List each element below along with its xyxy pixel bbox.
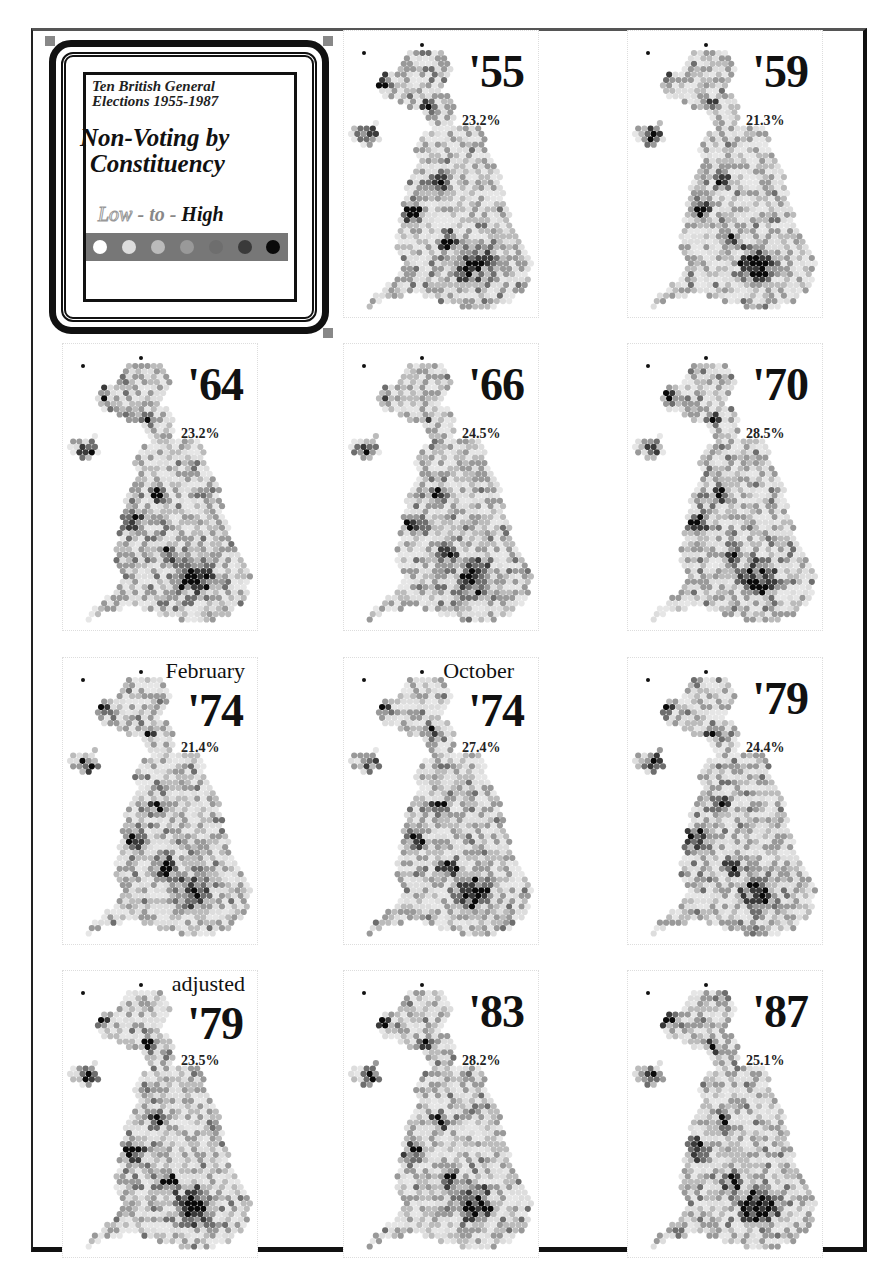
scale-low-label: Low bbox=[98, 203, 132, 225]
corner-mark bbox=[323, 36, 333, 46]
legend-scale-dot bbox=[209, 240, 223, 254]
legend-title: Non-Voting by Constituency bbox=[80, 125, 229, 177]
map-panel-1987: '87 25.1% bbox=[627, 970, 823, 1258]
year-label: '74 bbox=[468, 688, 524, 734]
year-label: '66 bbox=[468, 362, 524, 408]
map-panel-1974-october: October '74 27.4% bbox=[343, 657, 539, 945]
scale-to-label: - to - bbox=[132, 203, 181, 225]
nonvoting-percent: 23.5% bbox=[181, 1053, 220, 1069]
legend-subtitle-line2: Elections 1955-1987 bbox=[92, 94, 218, 109]
scale-high-label: High bbox=[181, 203, 223, 225]
map-panel-1964: '64 23.2% bbox=[62, 343, 258, 631]
corner-mark bbox=[323, 328, 333, 338]
nonvoting-percent: 21.4% bbox=[181, 740, 220, 756]
nonvoting-percent: 24.4% bbox=[746, 740, 785, 756]
legend-scale-dot bbox=[151, 240, 165, 254]
legend-scale-dot bbox=[93, 240, 107, 254]
year-label: '83 bbox=[468, 989, 524, 1035]
legend-panel: Ten British General Elections 1955-1987 … bbox=[45, 36, 333, 338]
year-label: '79 bbox=[187, 1001, 243, 1047]
nonvoting-percent: 27.4% bbox=[462, 740, 501, 756]
legend-scale-dot bbox=[122, 240, 136, 254]
year-label: '70 bbox=[752, 362, 808, 408]
legend-scale-label: Low - to - High bbox=[98, 203, 224, 226]
nonvoting-percent: 23.2% bbox=[181, 426, 220, 442]
map-panel-1979: '79 24.4% bbox=[627, 657, 823, 945]
legend-color-scale bbox=[86, 233, 288, 261]
year-label: '87 bbox=[752, 989, 808, 1035]
map-panel-1983: '83 28.2% bbox=[343, 970, 539, 1258]
year-label: '55 bbox=[468, 49, 524, 95]
legend-subtitle: Ten British General Elections 1955-1987 bbox=[92, 79, 218, 109]
corner-mark bbox=[45, 36, 55, 46]
adjusted-label: adjusted bbox=[172, 973, 245, 995]
nonvoting-percent: 25.1% bbox=[746, 1053, 785, 1069]
legend-subtitle-line1: Ten British General bbox=[92, 79, 218, 94]
year-label: '59 bbox=[752, 49, 808, 95]
map-panel-1966: '66 24.5% bbox=[343, 343, 539, 631]
map-panel-1959: '59 21.3% bbox=[627, 30, 823, 318]
nonvoting-percent: 28.5% bbox=[746, 426, 785, 442]
legend-title-line1: Non-Voting by bbox=[80, 125, 229, 151]
legend-title-line2: Constituency bbox=[80, 151, 229, 177]
map-panel-1970: '70 28.5% bbox=[627, 343, 823, 631]
year-label: '64 bbox=[187, 362, 243, 408]
map-panel-1974-february: February '74 21.4% bbox=[62, 657, 258, 945]
legend-scale-dot bbox=[180, 240, 194, 254]
legend-inner-box: Ten British General Elections 1955-1987 … bbox=[83, 72, 297, 302]
nonvoting-percent: 21.3% bbox=[746, 113, 785, 129]
month-label: October bbox=[443, 660, 514, 682]
month-label: February bbox=[166, 660, 245, 682]
year-label: '79 bbox=[752, 676, 808, 722]
map-panel-1979-adjusted: adjusted '79 23.5% bbox=[62, 970, 258, 1258]
map-panel-1955: '55 23.2% bbox=[343, 30, 539, 318]
nonvoting-percent: 28.2% bbox=[462, 1053, 501, 1069]
legend-scale-dot bbox=[266, 240, 280, 254]
year-label: '74 bbox=[187, 688, 243, 734]
nonvoting-percent: 24.5% bbox=[462, 426, 501, 442]
nonvoting-percent: 23.2% bbox=[462, 113, 501, 129]
legend-scale-dot bbox=[238, 240, 252, 254]
